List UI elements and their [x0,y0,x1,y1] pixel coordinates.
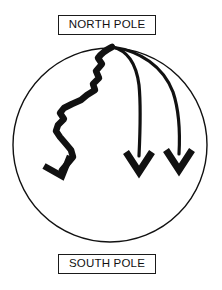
south-pole-label: SOUTH POLE [58,254,156,274]
polar-globe-diagram: NORTH POLE SOUTH POLE [0,0,222,290]
globe-graphic [0,0,222,290]
curved-arrow-right-shaft [112,47,179,154]
jagged-path-arrowhead [44,156,70,176]
jagged-path-arrow-shaft [56,47,112,170]
south-pole-label-text: SOUTH POLE [69,258,145,270]
curved-arrow-middle-shaft [112,47,140,156]
